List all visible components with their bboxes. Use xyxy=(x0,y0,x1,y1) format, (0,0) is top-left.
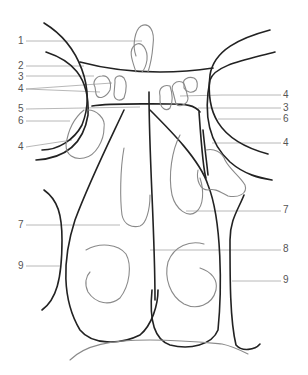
label-6-right: 6 xyxy=(283,114,289,124)
label-5-left: 5 xyxy=(18,104,24,114)
label-3-left: 3 xyxy=(18,72,24,82)
outer-contours xyxy=(36,23,275,349)
diagram-drawing xyxy=(0,0,308,375)
label-4-right-upper: 4 xyxy=(283,90,289,100)
label-2-left: 2 xyxy=(18,61,24,71)
label-6-left: 6 xyxy=(18,116,24,126)
label-3-right: 3 xyxy=(283,103,289,113)
label-9-right: 9 xyxy=(283,275,289,285)
label-4-left-lower: 4 xyxy=(18,142,24,152)
leader-lines-right xyxy=(150,95,281,281)
anatomical-diagram: 1 2 3 4 5 6 4 7 9 4 3 6 4 7 8 9 xyxy=(0,0,308,375)
label-1-left: 1 xyxy=(18,36,24,46)
label-8-right: 8 xyxy=(283,244,289,254)
inner-contours xyxy=(66,25,248,360)
label-7-left: 7 xyxy=(18,220,24,230)
label-9-left: 9 xyxy=(18,261,24,271)
label-4-right-lower: 4 xyxy=(283,138,289,148)
label-4-left-upper: 4 xyxy=(18,84,24,94)
label-7-right: 7 xyxy=(283,205,289,215)
